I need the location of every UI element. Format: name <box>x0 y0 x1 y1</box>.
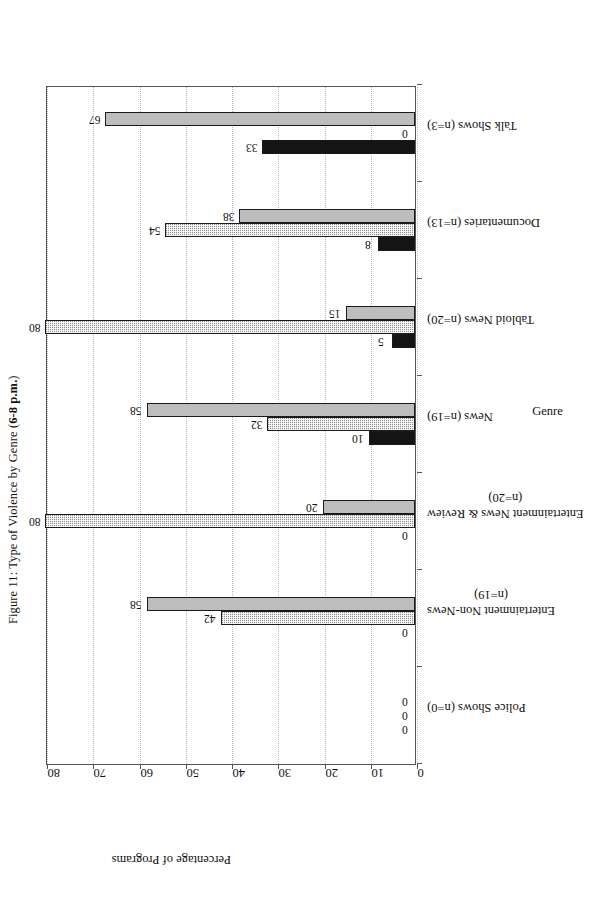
bar <box>239 210 415 224</box>
bar-group: 33067 <box>47 85 415 182</box>
figure-title-bold: 6-8 p.m. <box>6 380 20 424</box>
x-tick-mark <box>417 763 422 764</box>
bar-slot: 0 <box>47 626 415 640</box>
bar-value-label: 33 <box>246 142 258 154</box>
bar-value-label: 10 <box>352 433 364 445</box>
x-category-label: Police Shows (n=0) <box>427 700 526 716</box>
figure-title: Figure 11: Type of Violence by Genre (6-… <box>6 375 21 624</box>
bar-slot: 32 <box>47 418 415 432</box>
bar <box>147 598 415 612</box>
bar-value-label: 58 <box>130 405 142 417</box>
x-tick-mark <box>417 84 422 85</box>
bar <box>392 335 415 349</box>
bar <box>369 432 415 446</box>
bar-slot: 33 <box>47 141 415 155</box>
bar-slot: 0 <box>47 127 415 141</box>
y-axis-title: Percentage of Programs <box>112 852 231 867</box>
bar-slot: 20 <box>47 501 415 515</box>
x-axis-title: Genre <box>532 404 563 419</box>
bar <box>45 321 415 335</box>
bar-value-label: 80 <box>29 322 41 334</box>
bar <box>267 418 415 432</box>
bar-value-label: 20 <box>306 502 318 514</box>
bar <box>147 404 415 418</box>
bar-value-label: 5 <box>378 336 384 348</box>
x-category-line: Tabloid News (n=20) <box>427 312 534 328</box>
y-tick-label: 80 <box>48 765 70 780</box>
bar-group: 04258 <box>47 570 415 667</box>
y-tick-label: 10 <box>371 765 393 780</box>
x-category-label: Talk Shows (n=3) <box>427 118 517 134</box>
bar-slot: 5 <box>47 335 415 349</box>
y-tick-label: 30 <box>279 765 301 780</box>
bar-slot: 8 <box>47 238 415 252</box>
figure-title-suffix: ) <box>6 375 20 379</box>
bar-value-label: 0 <box>401 128 407 140</box>
bar <box>262 141 415 155</box>
bar-slot: 15 <box>47 307 415 321</box>
bar-slot: 80 <box>47 515 415 529</box>
x-category-label: Documentaries (n=13) <box>427 215 540 231</box>
bar-value-label: 54 <box>149 225 161 237</box>
x-category-line: News (n=19) <box>427 409 493 425</box>
bar-value-label: 80 <box>29 516 41 528</box>
x-category-line: Entertainment Non-News <box>427 603 555 619</box>
bar-slot: 67 <box>47 113 415 127</box>
bar-group: 08020 <box>47 473 415 570</box>
y-tick-label: 60 <box>140 765 162 780</box>
bar-value-label: 0 <box>401 627 407 639</box>
bar-value-label: 15 <box>329 308 341 320</box>
bar <box>45 515 415 529</box>
x-tick-mark <box>417 375 422 376</box>
x-category-label: News (n=19) <box>427 409 493 425</box>
bar-slot: 42 <box>47 612 415 626</box>
plot-area: 0102030405060708000004258080201032585801… <box>47 87 415 764</box>
bar-value-label: 0 <box>401 724 407 736</box>
x-tick-mark <box>417 472 422 473</box>
bar <box>323 501 416 515</box>
bar-group: 85438 <box>47 182 415 279</box>
y-tick-label: 0 <box>418 765 440 780</box>
bar-value-label: 0 <box>401 710 407 722</box>
bar-group: 000 <box>47 667 415 764</box>
bar-value-label: 58 <box>130 599 142 611</box>
bar <box>346 307 415 321</box>
x-category-label: Tabloid News (n=20) <box>427 312 534 328</box>
bar-slot: 54 <box>47 224 415 238</box>
x-category-line: Documentaries (n=13) <box>427 215 540 231</box>
bar-slot: 58 <box>47 404 415 418</box>
bar-slot: 0 <box>47 695 415 709</box>
bar-group: 58015 <box>47 279 415 376</box>
figure-canvas: Figure 11: Type of Violence by Genre (6-… <box>0 0 592 924</box>
y-tick-label: 20 <box>325 765 347 780</box>
plot-frame: 0102030405060708000004258080201032585801… <box>46 86 416 765</box>
bar-value-label: 67 <box>89 114 101 126</box>
x-category-line: (n=20) <box>427 490 584 506</box>
y-tick-label: 50 <box>186 765 208 780</box>
bar-value-label: 0 <box>401 530 407 542</box>
x-tick-mark <box>417 569 422 570</box>
bar-value-label: 8 <box>364 239 370 251</box>
bar-slot: 10 <box>47 432 415 446</box>
x-category-line: Entertainment News & Review <box>427 506 584 522</box>
bar-slot: 0 <box>47 723 415 737</box>
bar <box>165 224 415 238</box>
bar <box>378 238 415 252</box>
bar-value-label: 42 <box>204 613 216 625</box>
bar-group: 103258 <box>47 376 415 473</box>
bar-slot: 0 <box>47 529 415 543</box>
y-tick-label: 70 <box>94 765 116 780</box>
bar-slot: 38 <box>47 210 415 224</box>
x-tick-mark <box>417 181 422 182</box>
bar-value-label: 38 <box>223 211 235 223</box>
bar-slot: 58 <box>47 598 415 612</box>
y-tick-label: 40 <box>233 765 255 780</box>
x-tick-mark <box>417 666 422 667</box>
y-gridline: 0 <box>417 87 418 764</box>
bar <box>105 113 415 127</box>
x-category-line: Talk Shows (n=3) <box>427 118 517 134</box>
bar <box>221 612 415 626</box>
bar-slot: 0 <box>47 709 415 723</box>
x-category-line: (n=19) <box>427 587 555 603</box>
x-category-line: Police Shows (n=0) <box>427 700 526 716</box>
